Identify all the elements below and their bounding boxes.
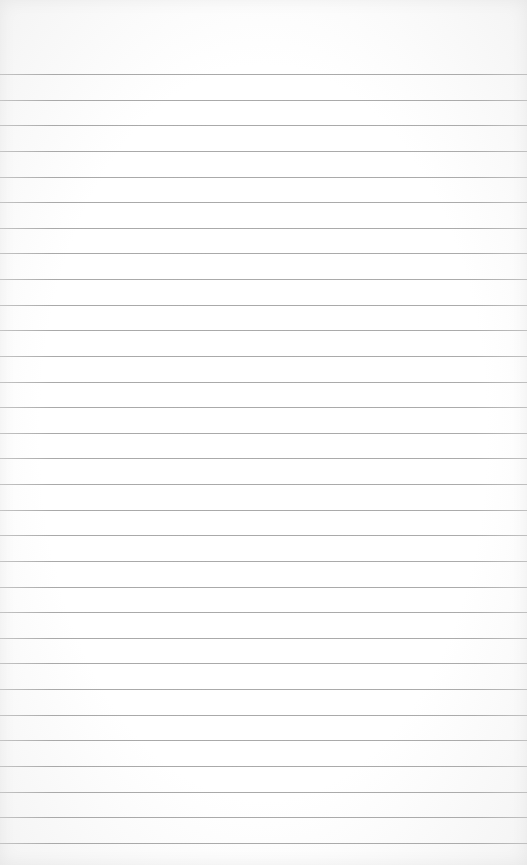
ruled-line (0, 612, 527, 613)
ruled-line (0, 177, 527, 178)
ruled-line (0, 305, 527, 306)
ruled-line (0, 202, 527, 203)
ruled-line (0, 407, 527, 408)
ruled-line (0, 458, 527, 459)
ruled-line (0, 484, 527, 485)
ruled-line (0, 279, 527, 280)
ruled-line (0, 587, 527, 588)
ruled-line (0, 638, 527, 639)
ruled-line (0, 356, 527, 357)
ruled-line (0, 740, 527, 741)
ruled-line (0, 715, 527, 716)
ruled-line (0, 74, 527, 75)
ruled-line (0, 100, 527, 101)
ruled-line (0, 766, 527, 767)
ruled-line (0, 561, 527, 562)
ruled-line (0, 382, 527, 383)
ruled-line (0, 228, 527, 229)
ruled-line (0, 689, 527, 690)
ruled-line (0, 843, 527, 844)
ruled-line (0, 433, 527, 434)
ruled-line (0, 510, 527, 511)
lined-paper (0, 0, 527, 865)
ruled-line (0, 125, 527, 126)
ruled-line (0, 817, 527, 818)
ruled-line (0, 663, 527, 664)
ruled-line (0, 151, 527, 152)
ruled-line (0, 330, 527, 331)
ruled-line (0, 792, 527, 793)
ruled-line (0, 535, 527, 536)
ruled-line (0, 253, 527, 254)
